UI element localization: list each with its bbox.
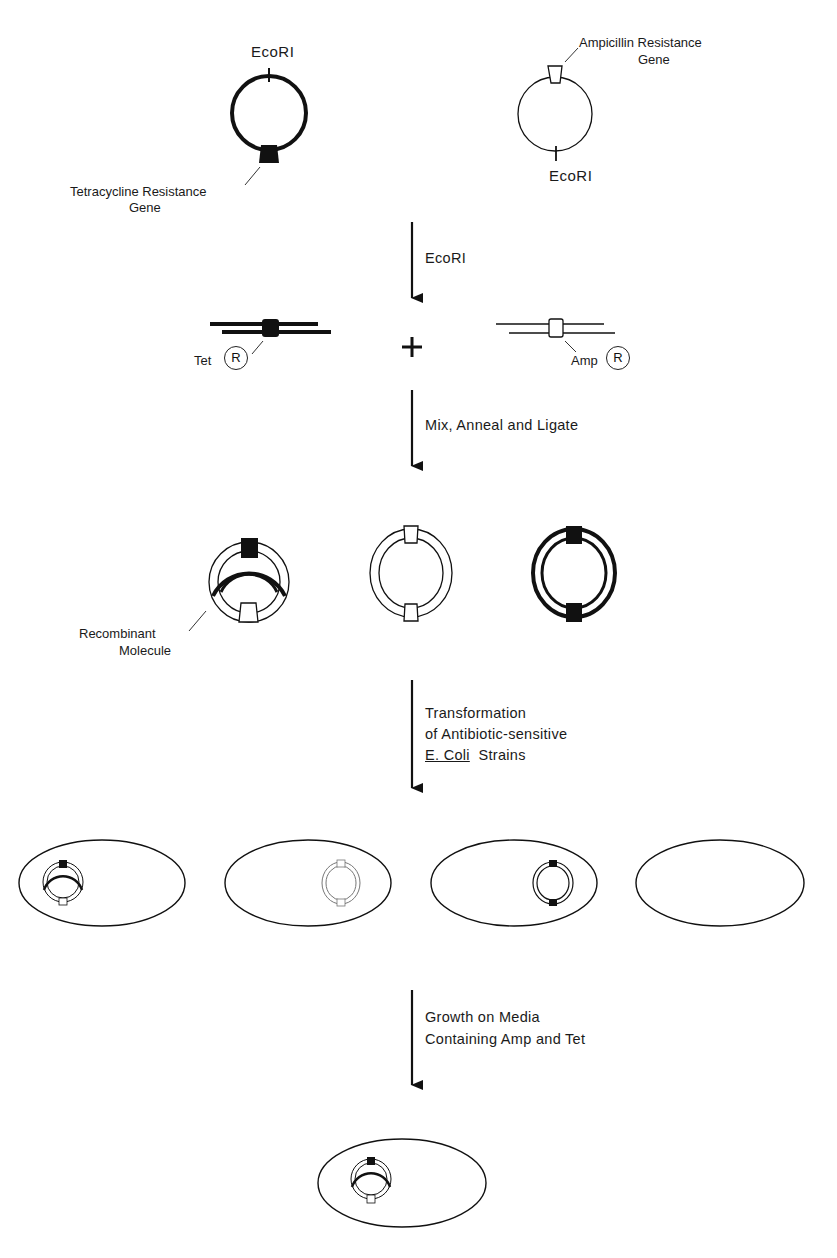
amp-resistance-marker: R xyxy=(606,346,630,370)
cell-tet-tet xyxy=(431,840,597,926)
amp-gene-label-2: Gene xyxy=(638,52,670,68)
cell-empty xyxy=(636,840,804,926)
step-3-label-1: Transformation xyxy=(425,703,526,723)
cell-recombinant xyxy=(19,840,185,926)
step-2-label: Mix, Anneal and Ligate xyxy=(425,415,578,435)
tet-plasmid-ecori-label: EcoRI xyxy=(251,44,294,60)
step-4-label-2: Containing Amp and Tet xyxy=(425,1029,585,1049)
tet-tet-plasmid xyxy=(533,526,615,622)
tet-gene-block xyxy=(259,145,279,163)
recombinant-plasmid xyxy=(189,538,289,631)
ecoli-label: E. Coli xyxy=(425,747,470,763)
tet-resistance-marker: R xyxy=(224,346,248,370)
amp-fragment-label: Amp xyxy=(571,353,598,369)
amp-plasmid xyxy=(518,48,592,161)
amp-fragment xyxy=(496,319,615,352)
cell-selected xyxy=(318,1139,486,1227)
amp-plasmid-ecori-label: EcoRI xyxy=(549,168,592,184)
tet-gene-label: Tetracycline Resistance xyxy=(70,184,207,200)
tet-plasmid xyxy=(232,68,306,185)
tet-gene-pointer xyxy=(245,167,260,185)
step-3-label-2: of Antibiotic-sensitive xyxy=(425,724,567,744)
strains-label: Strains xyxy=(478,747,525,763)
step-1-label: EcoRI xyxy=(425,248,466,268)
amp-amp-plasmid xyxy=(370,526,452,621)
amp-gene-label: Ampicillin Resistance xyxy=(579,35,702,51)
recombinant-label-1: Recombinant xyxy=(79,626,156,642)
plus-sign xyxy=(402,337,422,357)
amp-gene-block xyxy=(548,66,562,83)
step-4-label-1: Growth on Media xyxy=(425,1007,540,1027)
recombinant-label-2: Molecule xyxy=(119,643,171,659)
cell-amp-amp xyxy=(225,840,391,926)
tet-fragment-label: Tet xyxy=(194,353,211,369)
step-3-label-3: E. Coli Strains xyxy=(425,745,526,765)
tet-gene-label-2: Gene xyxy=(129,200,161,216)
